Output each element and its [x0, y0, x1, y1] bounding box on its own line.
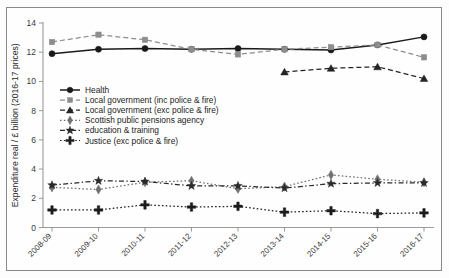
- data-point-marker: [421, 55, 426, 60]
- data-point-marker: [420, 209, 429, 218]
- legend-item-label: Health: [85, 85, 110, 95]
- data-point-marker: [96, 32, 101, 37]
- data-point-marker: [373, 209, 382, 218]
- data-point-marker: [189, 47, 194, 52]
- chart-figure: 024681012142008-092009-102010-112011-122…: [0, 0, 449, 278]
- series-line: [285, 67, 425, 79]
- data-point-marker: [327, 206, 336, 215]
- legend-item-3: Local government (exc police & fire): [60, 105, 219, 115]
- y-tick-label: 8: [31, 106, 36, 116]
- legend-item-label: Justice (exc police & fire): [85, 136, 178, 146]
- y-tick-label: 12: [27, 47, 37, 57]
- x-tick-label: 2013-14: [259, 231, 287, 259]
- legend-item-4: Scottish public pensions agency: [60, 115, 205, 125]
- legend-item-label: education & training: [85, 125, 159, 135]
- data-point-marker: [375, 42, 380, 47]
- data-point-marker: [187, 203, 196, 212]
- data-point-marker: [328, 170, 333, 179]
- data-point-marker: [67, 87, 73, 93]
- legend-item-6: Justice (exc police & fire): [60, 136, 178, 146]
- series-3: [281, 63, 428, 81]
- data-point-marker: [49, 51, 55, 57]
- legend-item-2: Local government (inc police & fire): [60, 95, 216, 105]
- y-tick-label: 10: [27, 76, 37, 86]
- data-point-marker: [49, 39, 54, 44]
- data-point-marker: [235, 46, 241, 52]
- x-tick-label: 2008-09: [26, 231, 54, 259]
- data-point-marker: [187, 181, 196, 189]
- data-point-marker: [142, 46, 148, 52]
- y-tick-label: 4: [31, 164, 36, 174]
- data-point-marker: [68, 98, 73, 103]
- data-point-marker: [66, 136, 74, 144]
- legend-item-1: Health: [60, 85, 110, 95]
- legend-item-5: education & training: [60, 125, 159, 135]
- data-point-marker: [234, 202, 243, 211]
- axes-group: 024681012142008-092009-102010-112011-122…: [10, 18, 434, 259]
- legend-item-label: Scottish public pensions agency: [85, 115, 205, 125]
- data-point-marker: [421, 34, 427, 40]
- data-point-marker: [328, 44, 333, 49]
- data-point-marker: [142, 37, 147, 42]
- y-axis-title: Expenditure real / £ billion (2016-17 pr…: [10, 43, 20, 207]
- legend-item-label: Local government (exc police & fire): [85, 105, 219, 115]
- data-point-marker: [48, 206, 57, 215]
- y-tick-label: 14: [27, 18, 37, 28]
- data-point-marker: [96, 185, 101, 194]
- x-tick-label: 2009-10: [73, 231, 101, 259]
- data-point-marker: [327, 179, 336, 187]
- y-tick-label: 0: [31, 223, 36, 233]
- x-tick-label: 2016-17: [398, 231, 426, 259]
- data-point-marker: [68, 116, 73, 125]
- data-point-marker: [94, 176, 103, 184]
- x-tick-label: 2011-12: [166, 231, 193, 258]
- line-chart: 024681012142008-092009-102010-112011-122…: [0, 0, 449, 278]
- data-point-marker: [66, 126, 74, 134]
- legend-item-label: Local government (inc police & fire): [85, 95, 216, 105]
- x-tick-label: 2010-11: [120, 231, 147, 258]
- x-tick-label: 2014-15: [305, 231, 333, 259]
- x-tick-label: 2015-16: [352, 231, 380, 259]
- chart-legend: HealthLocal government (inc police & fir…: [60, 85, 219, 146]
- data-point-marker: [280, 208, 289, 217]
- data-point-marker: [282, 47, 287, 52]
- data-point-marker: [141, 201, 150, 210]
- x-tick-label: 2012-13: [212, 231, 240, 259]
- data-point-marker: [96, 46, 102, 52]
- data-point-marker: [235, 52, 240, 57]
- y-tick-label: 2: [31, 193, 36, 203]
- data-point-marker: [94, 206, 103, 215]
- y-tick-label: 6: [31, 135, 36, 145]
- series-6: [48, 201, 429, 218]
